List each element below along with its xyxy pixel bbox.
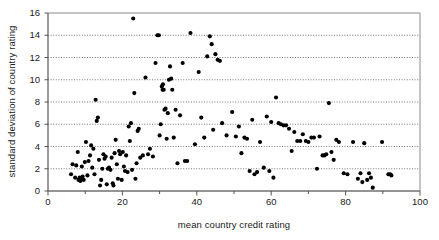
scatter-plot-area — [0, 0, 439, 240]
data-point — [202, 136, 206, 140]
data-point — [193, 142, 197, 146]
data-point — [130, 168, 134, 172]
data-point — [265, 114, 269, 118]
data-point — [158, 133, 162, 137]
data-point — [90, 166, 94, 170]
data-point — [85, 173, 89, 177]
data-point — [153, 61, 157, 65]
data-point — [205, 54, 209, 58]
data-point — [105, 182, 109, 186]
data-point — [245, 137, 249, 141]
data-point — [258, 140, 262, 144]
data-point — [86, 159, 90, 163]
data-point — [371, 186, 375, 190]
data-point — [208, 34, 212, 38]
data-point — [126, 170, 130, 174]
data-point — [389, 173, 393, 177]
data-point — [362, 141, 366, 145]
data-point — [312, 136, 316, 140]
data-point — [128, 139, 132, 143]
data-point — [132, 91, 136, 95]
data-point — [74, 163, 78, 167]
data-point — [99, 178, 103, 182]
data-point — [218, 59, 222, 63]
data-point — [116, 177, 120, 181]
data-point — [274, 95, 278, 99]
data-point — [369, 176, 373, 180]
data-point — [172, 136, 176, 140]
data-point — [113, 151, 117, 155]
data-point — [134, 161, 138, 165]
data-point — [88, 153, 92, 157]
data-point — [100, 167, 104, 171]
data-point — [146, 152, 150, 156]
data-point — [94, 98, 98, 102]
data-point — [114, 138, 118, 142]
data-point — [211, 128, 215, 132]
data-point — [97, 158, 101, 162]
data-point — [271, 176, 275, 180]
data-point — [250, 118, 254, 122]
data-point — [220, 121, 224, 125]
scatter-chart-figure: standard deviation of country rating mea… — [0, 0, 439, 240]
data-point — [255, 170, 259, 174]
data-point — [269, 120, 273, 124]
data-point — [337, 140, 341, 144]
data-point — [298, 139, 302, 143]
data-point — [151, 154, 155, 158]
data-point — [69, 172, 73, 176]
data-point — [327, 101, 331, 105]
data-point — [306, 140, 310, 144]
data-point — [262, 166, 266, 170]
data-point — [367, 171, 371, 175]
data-point — [98, 183, 102, 187]
data-point — [237, 124, 241, 128]
data-point — [358, 171, 362, 175]
data-point — [104, 154, 108, 158]
data-point — [143, 75, 147, 79]
data-point — [129, 121, 133, 125]
data-point — [380, 140, 384, 144]
data-point — [332, 158, 336, 162]
data-point — [315, 167, 319, 171]
data-point — [188, 31, 192, 35]
data-point — [213, 52, 217, 56]
data-point — [234, 134, 238, 138]
data-point — [224, 133, 228, 137]
data-point — [82, 178, 86, 182]
data-point — [345, 172, 349, 176]
data-point — [166, 111, 170, 115]
data-point — [120, 178, 124, 182]
data-point — [162, 88, 166, 92]
data-point — [290, 149, 294, 153]
data-point — [137, 127, 141, 131]
data-point — [115, 162, 119, 166]
data-point — [169, 77, 173, 81]
data-point — [365, 178, 369, 182]
data-point — [181, 61, 185, 65]
data-point — [76, 150, 80, 154]
data-point — [178, 113, 182, 117]
data-point — [96, 116, 100, 120]
data-point — [92, 172, 96, 176]
data-point — [159, 122, 163, 126]
data-point — [124, 153, 128, 157]
data-point — [185, 159, 189, 163]
data-point — [174, 108, 178, 112]
data-point — [121, 150, 125, 154]
data-point — [210, 42, 214, 46]
data-point — [287, 127, 291, 131]
data-point — [131, 16, 135, 20]
data-point — [342, 171, 346, 175]
data-point — [317, 134, 321, 138]
data-point — [351, 140, 355, 144]
data-point — [148, 147, 152, 151]
data-point — [161, 82, 165, 86]
data-point — [267, 169, 271, 173]
data-point — [133, 177, 137, 181]
data-point — [110, 156, 114, 160]
data-point — [248, 169, 252, 173]
data-point — [111, 183, 115, 187]
data-point — [163, 107, 167, 111]
data-point — [324, 152, 328, 156]
